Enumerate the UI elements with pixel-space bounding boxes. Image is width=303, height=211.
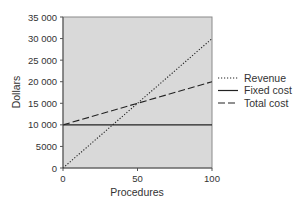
y-tick-label: 5000 [36,141,57,152]
y-tick-label: 35 000 [28,12,57,23]
x-axis-ticks: 050100 [60,168,220,184]
y-axis-ticks: 0500010 00015 00020 00025 00030 00035 00… [28,12,63,174]
y-tick-label: 20 000 [28,76,57,87]
y-axis-label: Dollars [10,76,22,109]
legend-label: Fixed cost [244,84,292,96]
x-axis-label: Procedures [110,186,164,198]
legend-label: Revenue [244,72,286,84]
legend-label: Total cost [244,97,288,109]
y-tick-label: 15 000 [28,98,57,109]
x-tick-label: 0 [60,173,65,184]
x-tick-label: 100 [204,173,220,184]
y-tick-label: 10 000 [28,119,57,130]
break-even-chart: 0500010 00015 00020 00025 00030 00035 00… [0,0,303,211]
y-tick-label: 30 000 [28,33,57,44]
y-tick-label: 25 000 [28,55,57,66]
plot-area [63,17,212,168]
legend: RevenueFixed costTotal cost [218,72,292,109]
x-tick-label: 50 [132,173,143,184]
y-tick-label: 0 [52,163,57,174]
